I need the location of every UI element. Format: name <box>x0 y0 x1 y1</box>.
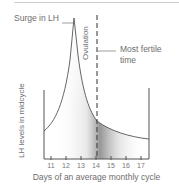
surge-label: Surge in LH <box>14 13 59 23</box>
most-fertile-label: Most fertile time <box>120 44 178 66</box>
x-tick-label: 13 <box>74 162 88 169</box>
x-tick-label: 17 <box>134 162 148 169</box>
x-tick-label: 12 <box>59 162 73 169</box>
ovulation-label: Ovulation <box>81 26 91 60</box>
most-fertile-line1: Most fertile <box>120 44 178 55</box>
x-tick-label: 11 <box>44 162 58 169</box>
y-axis-label: LH levels in midcycle <box>17 88 27 158</box>
most-fertile-line2: time <box>120 55 178 66</box>
x-tick-label: 14 <box>89 162 103 169</box>
x-tick-label: 15 <box>104 162 118 169</box>
x-tick-label: 16 <box>119 162 133 169</box>
x-axis-label: Days of an average monthly cycle <box>14 172 179 182</box>
